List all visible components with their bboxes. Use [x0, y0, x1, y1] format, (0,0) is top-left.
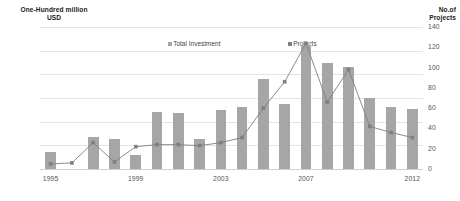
y-tick-label-right: 40	[428, 124, 458, 131]
y-tick-label-right: 140	[428, 23, 458, 30]
projects-line-marker	[219, 141, 223, 145]
projects-line-marker	[113, 160, 117, 164]
y-tick-label-right: 20	[428, 145, 458, 152]
y-tick-label-right: 100	[428, 64, 458, 71]
left-axis-title: One-Hundred million USD	[6, 6, 102, 23]
projects-line-marker	[70, 161, 74, 165]
x-tick-label: 2007	[286, 175, 326, 182]
projects-line-marker	[304, 41, 308, 45]
projects-line-marker	[368, 125, 372, 129]
y-tick-label-right: 80	[428, 84, 458, 91]
projects-line-marker	[155, 143, 159, 147]
x-tick-label: 2012	[392, 175, 432, 182]
projects-line-marker	[91, 141, 95, 145]
projects-line-marker	[283, 80, 287, 84]
y-tick-label-right: 120	[428, 43, 458, 50]
projects-line-marker	[389, 131, 393, 135]
right-axis-title: No.of Projects	[396, 6, 456, 23]
projects-line-marker	[262, 106, 266, 110]
y-tick-label-right: 0	[428, 165, 458, 172]
projects-line-marker	[325, 100, 329, 104]
x-tick-label: 1999	[116, 175, 156, 182]
projects-line-marker	[198, 144, 202, 148]
plot-area: 0.020.040.060.080.0100.0120.0 0204060801…	[40, 27, 423, 169]
projects-line-marker	[49, 162, 53, 166]
line-series-projects	[40, 27, 423, 169]
x-tick-label: 1995	[31, 175, 71, 182]
projects-line-path	[51, 43, 413, 164]
projects-line-marker	[177, 143, 181, 147]
projects-line-marker	[411, 136, 415, 140]
projects-line-marker	[347, 68, 351, 72]
projects-line-marker	[134, 145, 138, 149]
gridline	[40, 169, 423, 170]
combo-chart: One-Hundred million USD No.of Projects T…	[0, 0, 460, 201]
x-tick-label: 2003	[201, 175, 241, 182]
y-tick-label-right: 60	[428, 104, 458, 111]
projects-line-marker	[240, 136, 244, 140]
